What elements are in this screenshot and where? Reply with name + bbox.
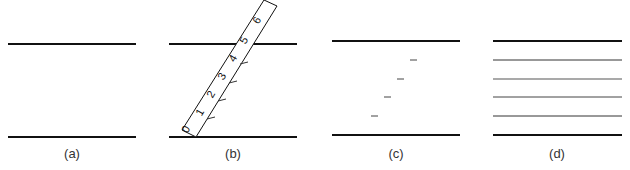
figure-canvas: 0 1 2 3 4 5 6: [0, 0, 630, 170]
panel-d: [493, 41, 622, 135]
panel-c: [332, 41, 460, 135]
caption-a: (a): [52, 146, 92, 161]
slanted-ruler: 0 1 2 3 4 5 6: [179, 0, 277, 137]
panel-a: [8, 44, 136, 137]
caption-d: (d): [537, 146, 577, 161]
panel-b: 0 1 2 3 4 5 6: [169, 0, 297, 137]
caption-c: (c): [376, 146, 416, 161]
caption-b: (b): [213, 146, 253, 161]
